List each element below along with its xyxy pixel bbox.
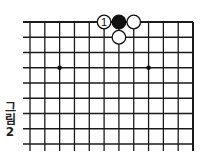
black-stone-icon	[112, 15, 126, 29]
stone-move-number: 1	[101, 16, 107, 28]
star-point-icon	[57, 65, 62, 70]
go-board-diagram: 1	[0, 0, 206, 166]
caption-number: 2	[3, 126, 17, 138]
white-stone-icon	[127, 15, 141, 29]
white-stone-icon	[112, 30, 126, 44]
star-point-icon	[146, 65, 151, 70]
figure-caption: 그 림 2	[3, 102, 17, 138]
